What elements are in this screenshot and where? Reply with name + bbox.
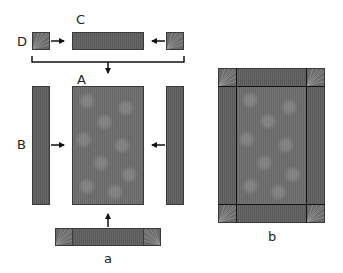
bracket-icon <box>32 56 184 62</box>
assembled-corner-top-right <box>306 68 325 87</box>
corner-square-pattern-icon <box>219 205 236 222</box>
corner-square-pattern-icon <box>219 69 236 86</box>
seam-line-right <box>306 68 307 223</box>
assembled-corner-bottom-left <box>218 204 237 223</box>
assembled-center-panel <box>236 86 307 204</box>
corner-square-pattern-icon <box>307 69 324 86</box>
assembled-corner-top-left <box>218 68 237 87</box>
seam-line-top <box>218 86 325 87</box>
corner-square-pattern-icon <box>307 205 324 222</box>
assembled-corner-bottom-right <box>306 204 325 223</box>
label-b-lower: b <box>268 230 276 243</box>
seam-line-bottom <box>218 204 325 205</box>
seam-line-left <box>236 68 237 223</box>
